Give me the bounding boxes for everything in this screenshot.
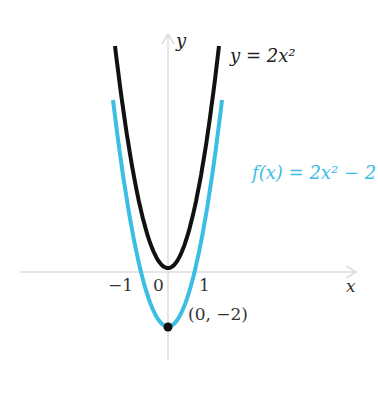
tick-0: 0 [153,275,164,295]
curve1-label: y = 2x² [230,45,296,66]
graph-canvas [0,0,378,395]
tick-neg1: −1 [108,275,133,295]
curve2-label: f(x) = 2x² − 2 [252,162,376,183]
vertex-annotation: (0, −2) [188,304,248,324]
x-axis-label: x [346,276,356,296]
tick-1: 1 [199,275,210,295]
vertex-point [164,323,173,332]
y-axis-label: y [176,30,186,51]
